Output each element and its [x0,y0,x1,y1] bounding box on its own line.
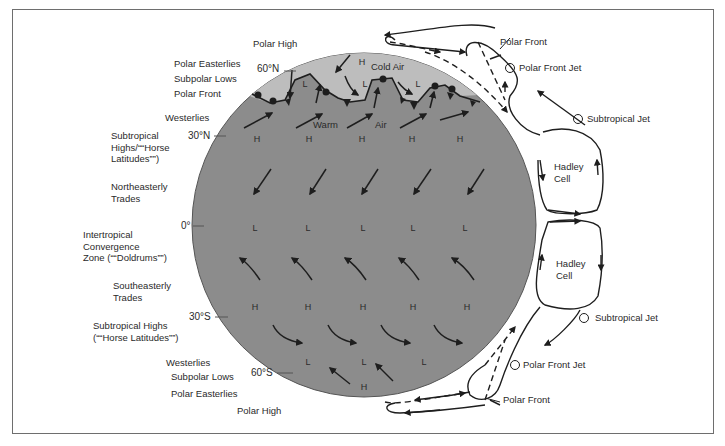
label-polar-easterlies-s: Polar Easterlies [171,388,238,400]
label-subtropical-highs-n: Subtropical Highs/““Horse Latitudes””) [111,130,170,165]
high-30s-5: H [464,302,471,312]
label-polar-front-s-right: Polar Front [503,394,550,406]
label-polar-high-n: Polar High [253,38,297,50]
low-eq-4: L [410,223,415,233]
label-subpolar-lows-s: Subpolar Lows [171,371,234,383]
label-subtropical-highs-s: Subtropical Highs (““Horse Latitudes””) [93,320,179,343]
label-polar-front-jet-s: Polar Front Jet [523,359,585,371]
label-warm: Warm [313,119,338,131]
latitude-30n: 30°N [188,130,210,141]
latitude-0: 0° [181,220,191,231]
subpolar-low-s-2: L [361,357,366,367]
low-eq-1: L [252,223,257,233]
polar-high-s: H [361,382,368,392]
subpolar-low-n-1: L [302,79,307,89]
label-polar-easterlies-n: Polar Easterlies [174,58,241,70]
high-30n-3: H [359,134,366,144]
label-itcz: Intertropical Convergence Zone (““Doldru… [83,229,167,264]
high-30s-1: H [252,302,259,312]
label-polar-front-jet-n: Polar Front Jet [519,62,581,74]
low-eq-2: L [305,223,310,233]
label-subtropical-jet-s: Subtropical Jet [595,312,658,324]
high-30s-3: H [360,302,367,312]
label-polar-high-s: Polar High [237,405,281,417]
low-eq-3: L [360,223,365,233]
subpolar-low-n-3: L [415,79,420,89]
label-subpolar-lows-n: Subpolar Lows [174,73,237,85]
latitude-60n: 60°N [257,63,279,74]
low-eq-5: L [462,223,467,233]
latitude-30s: 30°S [189,311,211,322]
globe [180,40,560,397]
label-air: Air [375,119,387,131]
high-30s-2: H [305,302,312,312]
label-polar-front-n-right: Polar Front [500,36,547,48]
subpolar-low-n-2: L [362,79,367,89]
latitude-60s: 60°S [251,367,273,378]
high-30n-2: H [306,134,313,144]
high-30n-4: H [409,134,416,144]
high-30s-4: H [410,302,417,312]
subpolar-low-s-1: L [305,357,310,367]
high-30n-5: H [457,134,464,144]
label-westerlies-s: Westerlies [166,357,210,369]
polar-high-n: H [359,57,366,67]
high-30n-1: H [254,134,261,144]
label-cold-air: Cold Air [371,61,404,73]
label-hadley-cell-n: Hadley Cell [554,161,584,184]
subpolar-low-s-3: L [421,357,426,367]
label-westerlies-n: Westerlies [165,112,209,124]
label-hadley-cell-s: Hadley Cell [556,258,586,281]
label-se-trades: Southeasterly Trades [113,280,171,303]
label-ne-trades: Northeasterly Trades [111,181,168,204]
label-subtropical-jet-n: Subtropical Jet [587,113,650,125]
label-polar-front-n: Polar Front [174,88,221,100]
